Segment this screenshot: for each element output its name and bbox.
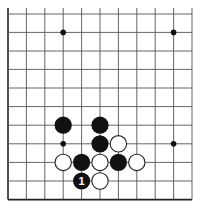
black-stone [55,117,72,134]
white-stone [92,173,108,189]
black-stone-icon [55,117,72,134]
white-stone-icon [129,154,145,170]
white-stone-icon [55,154,71,170]
white-stone [55,154,71,170]
white-stone-icon [92,173,108,189]
star-point-icon [60,30,66,36]
white-stone [92,154,108,170]
black-stone [73,154,90,171]
star-point-icon [171,141,177,147]
black-stone-icon [91,135,108,152]
black-stone [91,135,108,152]
white-stone-icon [92,154,108,170]
white-stone [129,154,145,170]
black-stone [110,154,127,171]
white-stone [110,136,126,152]
black-stone [91,117,108,134]
move-number-label: 1 [79,175,85,187]
white-stone-icon [110,136,126,152]
black-stone-icon [110,154,127,171]
black-stone: 1 [73,172,90,189]
go-board: 1 [0,0,198,210]
star-point-icon [171,30,177,36]
black-stone-icon [91,117,108,134]
black-stone-icon [73,154,90,171]
star-point-icon [60,141,66,147]
